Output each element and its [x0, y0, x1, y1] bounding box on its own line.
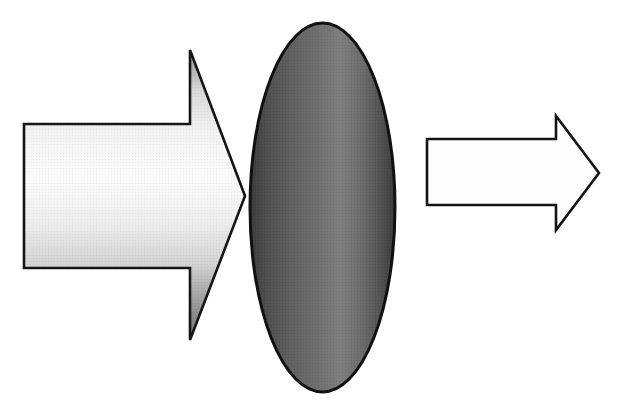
diagram-svg: Incident arrow striking absorbing body w…	[0, 0, 625, 408]
diagram-canvas: Incident arrow striking absorbing body w…	[0, 0, 625, 408]
absorber-ellipse-texture	[252, 25, 394, 391]
absorber-ellipse	[250, 23, 395, 392]
